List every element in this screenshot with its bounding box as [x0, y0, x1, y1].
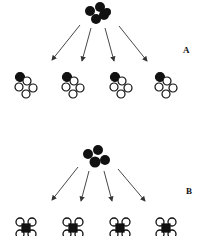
panel-b-child-3	[110, 218, 130, 236]
panel-b-children	[16, 218, 176, 236]
panel-a-label: A	[183, 45, 190, 55]
panel-a-parent-cluster	[85, 2, 111, 24]
diagram-canvas	[0, 0, 205, 236]
panel-b-label: B	[186, 186, 192, 196]
panel-b-parent-cluster	[83, 145, 110, 168]
panel-b-arrows	[52, 167, 145, 201]
panel-a-child-2	[62, 73, 84, 99]
panel-a-child-1	[15, 73, 37, 99]
panel-b-child-4	[156, 218, 176, 236]
panel-a-children	[15, 73, 177, 99]
panel-a-child-4	[155, 73, 177, 99]
panel-a-child-3	[110, 73, 132, 99]
panel-b-child-1	[16, 218, 36, 236]
panel-a-arrows	[52, 25, 147, 61]
panel-b-child-2	[63, 218, 83, 236]
